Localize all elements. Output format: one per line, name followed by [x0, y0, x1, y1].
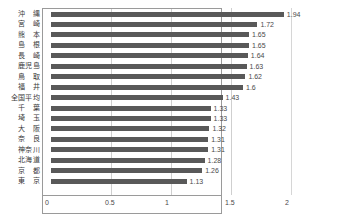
tick-label-1: 1	[165, 197, 169, 209]
bar-value-label: 1.72	[260, 20, 274, 29]
bar-row: 島 根1.65	[0, 40, 340, 50]
bar	[51, 179, 187, 184]
bar-row: 鳥 取1.62	[0, 72, 340, 82]
bar-value-label: 1.62	[248, 72, 262, 81]
category-label: 宮 崎	[0, 19, 40, 29]
bar-value-label: 1.33	[214, 104, 228, 113]
bar-value-label: 1.43	[226, 93, 240, 102]
category-label: 島 根	[0, 40, 40, 50]
x-axis-tick-labels: 00.511.522.5	[0, 197, 340, 211]
bar	[51, 12, 284, 17]
tick-label-1.5: 1.5	[225, 197, 235, 209]
bar	[51, 53, 248, 58]
plot-area: 沖 縄1.94宮 崎1.72熊 本1.65島 根1.65長 崎1.64鹿児島1.…	[0, 0, 340, 223]
category-label: 北海道	[0, 155, 40, 165]
bar-row: 熊 本1.65	[0, 30, 340, 40]
bar-value-label: 1.26	[205, 166, 219, 175]
bar	[51, 126, 209, 131]
bar-row: 全国平均1.43	[0, 93, 340, 103]
category-label: 全国平均	[0, 93, 40, 103]
bar	[51, 85, 243, 90]
bar	[51, 95, 223, 100]
bar-row: 神奈川1.31	[0, 145, 340, 155]
bar-value-label: 1.65	[252, 30, 266, 39]
bar-row: 福 井1.6	[0, 82, 340, 92]
category-label: 熊 本	[0, 30, 40, 40]
bar-row: 千 葉1.33	[0, 103, 340, 113]
category-label: 沖 縄	[0, 9, 40, 19]
bar-row: 奈 良1.31	[0, 134, 340, 144]
bar-value-label: 1.64	[251, 51, 265, 60]
tick-label-0.5: 0.5	[105, 197, 115, 209]
bar-row: 北海道1.28	[0, 155, 340, 165]
bar-row: 沖 縄1.94	[0, 9, 340, 19]
bar-value-label: 1.94	[287, 10, 301, 19]
category-label: 福 井	[0, 82, 40, 92]
bar-value-label: 1.65	[252, 41, 266, 50]
bar-chart: 沖 縄1.94宮 崎1.72熊 本1.65島 根1.65長 崎1.64鹿児島1.…	[0, 0, 340, 223]
bar-value-label: 1.31	[211, 135, 225, 144]
bar	[51, 74, 245, 79]
bar-value-label: 1.13	[190, 177, 204, 186]
bar-row: 埼 玉1.33	[0, 113, 340, 123]
axis-box-divider	[42, 195, 222, 196]
bar	[51, 116, 211, 121]
bar	[51, 158, 205, 163]
bar-rows: 沖 縄1.94宮 崎1.72熊 本1.65島 根1.65長 崎1.64鹿児島1.…	[0, 9, 340, 186]
bar	[51, 137, 208, 142]
bar	[51, 147, 208, 152]
bar	[51, 106, 211, 111]
bar-value-label: 1.6	[246, 83, 256, 92]
bar	[51, 32, 249, 37]
bar-row: 宮 崎1.72	[0, 19, 340, 29]
tick-label-2: 2	[285, 197, 289, 209]
category-label: 京 都	[0, 166, 40, 176]
bar-row: 大 阪1.32	[0, 124, 340, 134]
bar-row: 鹿児島1.63	[0, 61, 340, 71]
category-label: 奈 良	[0, 134, 40, 144]
bar-value-label: 1.63	[250, 62, 264, 71]
category-label: 長 崎	[0, 51, 40, 61]
bar-value-label: 1.32	[212, 124, 226, 133]
category-label: 大 阪	[0, 124, 40, 134]
bar-row: 長 崎1.64	[0, 51, 340, 61]
bar	[51, 43, 249, 48]
category-label: 東 京	[0, 176, 40, 186]
bar-row: 東 京1.13	[0, 176, 340, 186]
bar-row: 京 都1.26	[0, 166, 340, 176]
bar-value-label: 1.31	[211, 145, 225, 154]
category-label: 千 葉	[0, 103, 40, 113]
category-label: 鳥 取	[0, 72, 40, 82]
category-label: 神奈川	[0, 145, 40, 155]
bar-value-label: 1.28	[208, 156, 222, 165]
bar	[51, 22, 257, 27]
category-label: 鹿児島	[0, 61, 40, 71]
bar	[51, 168, 202, 173]
category-label: 埼 玉	[0, 113, 40, 123]
bar-value-label: 1.33	[214, 114, 228, 123]
tick-label-0: 0	[45, 197, 49, 209]
bar	[51, 64, 247, 69]
